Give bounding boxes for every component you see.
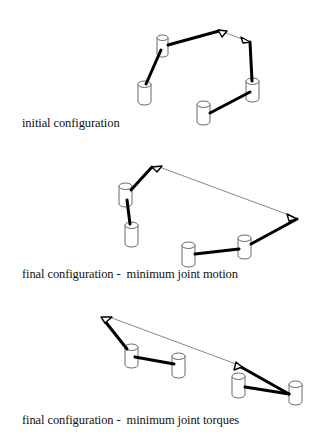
end-effector-triangle-icon	[101, 317, 112, 323]
joint-cylinder-icon	[119, 183, 132, 207]
thin-link-line	[226, 33, 242, 39]
joint-cylinder-icon	[172, 353, 185, 378]
joint-cylinder-icon	[197, 101, 210, 125]
thin-link-line	[162, 168, 289, 215]
cylinder-top	[232, 373, 245, 380]
joint-cylinder-icon	[289, 381, 302, 405]
end-effector-triangle-icon	[152, 166, 162, 172]
joint-cylinder-icon	[238, 235, 251, 259]
end-effector-triangle-icon	[241, 37, 250, 43]
panel-initial	[138, 30, 259, 125]
thick-link-line	[135, 357, 174, 364]
end-effector-triangle-icon	[218, 30, 227, 37]
diagram-canvas	[0, 0, 323, 437]
cylinder-top	[119, 183, 132, 190]
thick-link-line	[250, 42, 252, 81]
cylinder-top	[289, 381, 302, 388]
cylinder-top	[125, 222, 138, 229]
caption-initial-configuration: initial configuration	[22, 116, 120, 131]
cylinder-top	[172, 353, 185, 360]
joint-cylinder-icon	[138, 81, 151, 105]
joint-cylinder-icon	[125, 222, 138, 247]
panel-min-torques	[101, 317, 302, 405]
cylinder-top	[157, 35, 168, 41]
thick-link-line	[195, 249, 239, 254]
cylinder-top	[238, 235, 251, 242]
cylinder-top	[197, 101, 210, 108]
panel-min-motion	[119, 166, 297, 267]
thick-link-line	[251, 219, 297, 244]
robot-arm-configurations-figure: initial configuration final configuratio…	[0, 0, 323, 437]
joint-cylinder-icon	[232, 373, 245, 398]
cylinder-top	[138, 81, 151, 88]
thick-link-line	[104, 320, 127, 349]
end-effector-triangle-icon	[287, 214, 297, 221]
thick-link-line	[146, 50, 161, 84]
joint-cylinder-icon	[182, 242, 195, 267]
end-effector-triangle-icon	[234, 362, 242, 370]
caption-minimum-joint-motion: final configuration - minimum joint moti…	[22, 267, 238, 282]
caption-minimum-joint-torques: final configuration - minimum joint torq…	[22, 413, 239, 428]
thick-link-line	[131, 167, 152, 190]
cylinder-top	[182, 242, 195, 249]
thick-link-line	[210, 92, 250, 113]
thick-link-line	[168, 31, 219, 45]
